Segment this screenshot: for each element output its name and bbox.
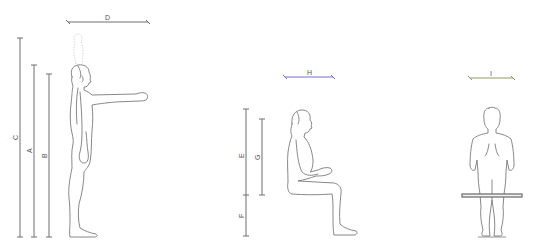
dimension-f: F [238,195,249,236]
dimension-b: B [41,74,52,237]
seated-body-outline [288,110,357,235]
dimension-i: I [468,70,515,80]
seated-back-figure-group: I [462,70,522,237]
raised-arm-ghost [74,34,83,64]
dimension-d: D [66,14,150,24]
dimension-label-a: A [26,148,33,153]
dimension-a: A [26,65,37,237]
back-view-spine-detail [485,144,499,200]
dimension-label-h: H [307,69,312,76]
standing-torso-line [76,88,78,124]
seated-ear-detail [297,112,299,124]
standing-figure-group: D C A B [12,14,150,237]
back-view-body-outline [470,107,514,236]
dimension-label-c: C [12,135,19,140]
dimension-label-f: F [238,214,245,218]
standing-ear-detail [78,66,83,82]
anthropometric-diagram: D C A B [0,0,535,252]
standing-hanging-arm [79,92,88,163]
dimension-label-b: B [41,153,48,158]
dimension-e: E [238,109,249,195]
dimension-h: H [283,69,335,79]
seated-arm [296,140,318,175]
dimension-label-d: D [105,14,110,21]
dimension-g: G [254,119,265,195]
bench [462,194,522,197]
dimension-label-i: I [490,70,492,77]
dimension-label-g: G [254,155,261,160]
dimension-c: C [12,38,23,237]
seated-side-figure-group: H E F G [238,69,357,236]
dimension-label-e: E [238,153,245,158]
